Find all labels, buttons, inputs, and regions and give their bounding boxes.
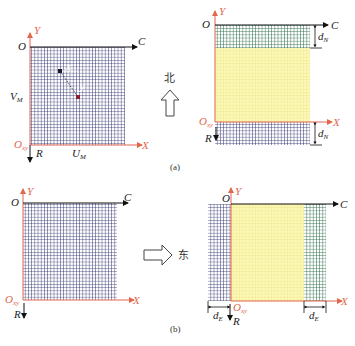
panel-a-left-image-grid (30, 33, 142, 162)
dn-bottom-label: dN (318, 127, 329, 141)
r-axis-label: R (13, 308, 21, 320)
overlap-region-yellow (231, 204, 304, 301)
x-axis-label: X (141, 139, 150, 151)
north-label: 北 (164, 72, 175, 85)
diagram-canvas: O Y C Oxy X R VM UM x y 北 O Y C Oxy X R … (0, 0, 355, 346)
origin-xy-label: Oxy (14, 138, 29, 152)
overlap-region-yellow (215, 48, 310, 122)
image-grid-blue (23, 203, 117, 300)
c-axis-label: C (331, 19, 339, 31)
point-y-label: y (79, 81, 85, 92)
c-axis-label: C (138, 35, 146, 47)
origin-xy-label: Oxy (5, 293, 20, 307)
y-axis-label: Y (235, 185, 243, 197)
origin-o-label: O (202, 18, 210, 30)
r-axis-label: R (232, 315, 240, 327)
y-axis-label: Y (27, 185, 35, 197)
south-strip-blue (215, 122, 310, 145)
de-right-label: dE (309, 309, 320, 323)
start-point (58, 69, 62, 73)
u-m-label: UM (72, 147, 87, 161)
east-strip-green (304, 204, 326, 301)
panel-a-right-image-grid (215, 11, 332, 145)
dn-top-label: dN (318, 30, 329, 44)
de-left-label: dE (213, 309, 224, 323)
x-axis-label: X (132, 294, 141, 306)
x-axis-label: X (340, 295, 349, 307)
r-axis-label: R (204, 132, 212, 144)
arrow-up-outline-icon (161, 90, 179, 116)
r-axis-label: R (35, 147, 43, 159)
east-label: 东 (178, 249, 189, 262)
y-axis-label: Y (219, 5, 227, 17)
c-axis-label: C (340, 198, 348, 210)
origin-o-label: O (222, 192, 230, 204)
panel-b-right-image-grid (208, 188, 342, 320)
caption-a: (a) (170, 162, 180, 172)
north-strip-green (215, 25, 310, 48)
y-axis-label: Y (34, 24, 42, 36)
x-axis-label: X (332, 116, 341, 128)
origin-xy-label: Oxy (199, 115, 214, 129)
west-strip-blue (208, 204, 231, 301)
caption-b: (b) (170, 324, 181, 334)
panel-b-left-image-grid (23, 189, 134, 318)
arrow-right-outline-icon (144, 245, 172, 265)
c-axis-label: C (124, 191, 132, 203)
origin-o-label: O (11, 196, 19, 208)
origin-o-label: O (18, 40, 26, 52)
v-m-label: VM (10, 90, 24, 104)
origin-xy-label: Oxy (233, 301, 248, 315)
end-point (76, 95, 80, 99)
point-x-label: x (65, 61, 71, 72)
